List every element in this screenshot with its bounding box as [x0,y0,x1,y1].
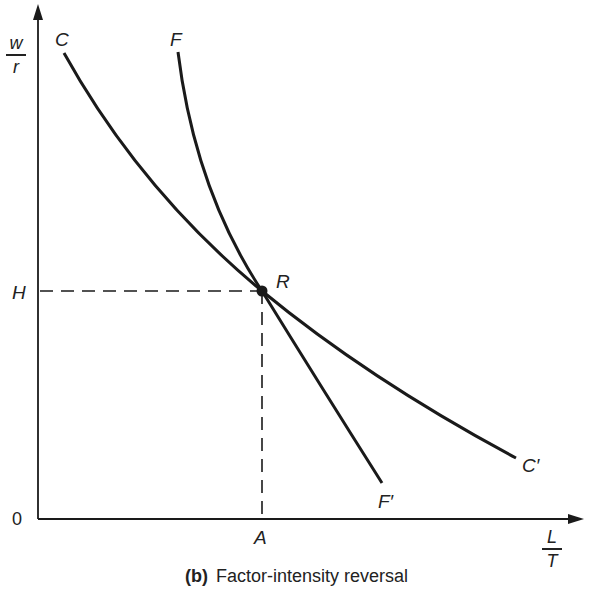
diagram-canvas [0,0,593,599]
point-r [257,286,268,297]
label-f-prime: F′ [378,492,393,511]
label-c-prime: C′ [522,456,539,475]
caption-tag: (b) [185,566,208,586]
curve-cc [64,53,516,458]
figure-caption: (b)Factor-intensity reversal [0,566,593,587]
y-axis-arrow-icon [33,4,43,20]
fraction-bar [542,548,562,550]
y-axis-label-numerator: w [10,34,23,52]
x-axis-label-numerator: L [547,528,557,546]
y-axis-label-denominator: r [13,58,19,76]
caption-text: Factor-intensity reversal [216,566,408,586]
label-r: R [276,272,290,291]
y-axis-label: w r [6,34,26,76]
x-axis-arrow-icon [568,514,584,524]
label-h: H [12,283,26,302]
fraction-bar [6,54,26,56]
curve-ff [178,52,382,483]
label-c: C [55,30,69,49]
label-a: A [254,528,267,547]
x-axis-label: L T [542,528,562,570]
label-f: F [170,30,182,49]
origin-label: 0 [12,510,22,528]
